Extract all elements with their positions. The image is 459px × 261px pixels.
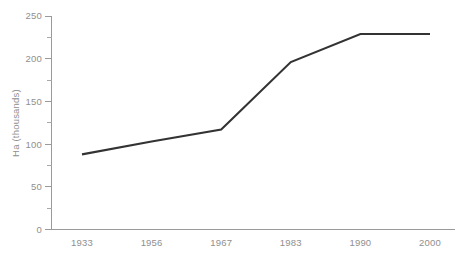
chart-background — [0, 0, 459, 261]
y-tick-label: 0 — [37, 224, 42, 235]
y-tick-label: 50 — [31, 181, 42, 192]
y-tick-label: 200 — [26, 53, 42, 64]
chart-container: 050100150200250 193319561967198319902000… — [0, 0, 459, 261]
x-tick-label: 1983 — [280, 237, 302, 248]
y-tick-label: 250 — [26, 10, 42, 21]
y-tick-label: 100 — [26, 139, 42, 150]
y-tick-label: 150 — [26, 96, 42, 107]
x-tick-label: 1990 — [349, 237, 371, 248]
x-tick-label: 1967 — [210, 237, 232, 248]
x-tick-label: 2000 — [419, 237, 441, 248]
y-axis-title: Ha (thousands) — [10, 89, 21, 157]
x-tick-label: 1933 — [71, 237, 93, 248]
line-chart: 050100150200250 193319561967198319902000… — [0, 0, 459, 261]
x-tick-label: 1956 — [141, 237, 163, 248]
